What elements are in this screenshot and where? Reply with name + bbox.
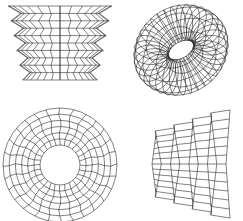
torus-spoke-line [134, 49, 169, 71]
figure-svg [0, 0, 243, 221]
bellows-vertical-mesh [8, 6, 112, 80]
annulus-spoke [9, 139, 42, 157]
figure-canvas [0, 0, 243, 221]
torus-spoke-line [193, 30, 228, 52]
annulus-polar-mesh [3, 108, 117, 221]
annulus-ring [40, 145, 80, 185]
annulus-spoke [78, 139, 110, 157]
bellows-horizontal-mesh [152, 110, 230, 218]
torus-oblique-mesh [134, 4, 229, 95]
annulus-spoke [73, 180, 94, 210]
annulus-ring [34, 139, 86, 191]
bellows-fold-line [226, 110, 230, 218]
